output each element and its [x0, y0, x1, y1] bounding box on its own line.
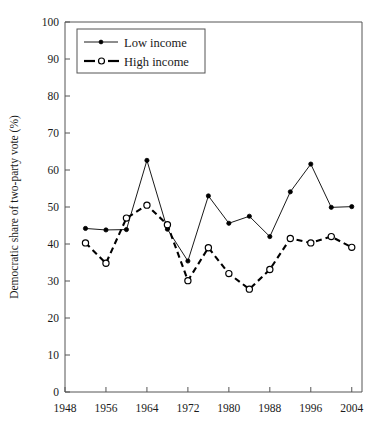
data-point-low-income-1996 — [309, 162, 313, 166]
data-point-high-income-1960 — [123, 215, 129, 221]
x-tick-label-1948: 1948 — [54, 402, 77, 414]
data-point-low-income-1964 — [145, 158, 149, 162]
data-point-low-income-1952 — [83, 226, 87, 230]
legend-label-low-income: Low income — [124, 36, 187, 50]
data-point-low-income-1984 — [247, 214, 251, 218]
x-axis-tick-marks — [65, 387, 352, 392]
data-point-high-income-1996 — [308, 240, 314, 246]
legend-swatch-marker-high-income — [99, 58, 105, 64]
chart-figure: 0102030405060708090100 19481956196419721… — [0, 0, 375, 432]
series-markers-low-income — [83, 158, 353, 263]
x-tick-label-1972: 1972 — [176, 402, 199, 414]
y-tick-label-20: 20 — [48, 312, 60, 324]
data-point-high-income-1952 — [82, 240, 88, 246]
data-point-high-income-1984 — [246, 286, 252, 292]
data-point-high-income-1968 — [164, 222, 170, 228]
data-point-low-income-1976 — [206, 194, 210, 198]
y-tick-label-70: 70 — [48, 127, 60, 139]
data-point-low-income-2000 — [329, 205, 333, 209]
data-point-high-income-1976 — [205, 245, 211, 251]
y-tick-label-80: 80 — [48, 90, 60, 102]
legend-swatch-marker-low-income — [99, 40, 103, 44]
y-tick-label-50: 50 — [48, 201, 60, 213]
data-point-low-income-1992 — [288, 190, 292, 194]
data-point-high-income-1992 — [287, 235, 293, 241]
x-tick-label-1980: 1980 — [217, 402, 240, 414]
y-axis-title: Democratic share of two-party vote (%) — [8, 115, 21, 299]
line-chart: 0102030405060708090100 19481956196419721… — [0, 0, 375, 432]
data-point-high-income-1956 — [103, 260, 109, 266]
y-axis-tick-marks — [65, 22, 70, 392]
legend-label-high-income: High income — [124, 55, 189, 69]
x-axis-tick-labels: 19481956196419721980198819962004 — [54, 402, 364, 414]
x-tick-label-1956: 1956 — [94, 402, 117, 414]
data-point-low-income-1988 — [268, 235, 272, 239]
y-tick-label-100: 100 — [42, 16, 60, 28]
series-markers-high-income — [82, 202, 354, 292]
y-tick-label-60: 60 — [48, 164, 60, 176]
y-tick-label-30: 30 — [48, 275, 60, 287]
data-point-high-income-1988 — [267, 266, 273, 272]
y-tick-label-10: 10 — [48, 349, 60, 361]
data-point-high-income-1980 — [226, 271, 232, 277]
data-point-high-income-2000 — [328, 234, 334, 240]
x-tick-label-1988: 1988 — [258, 402, 281, 414]
y-tick-label-0: 0 — [53, 386, 59, 398]
x-tick-label-1964: 1964 — [135, 402, 158, 414]
y-axis-tick-labels: 0102030405060708090100 — [42, 16, 60, 398]
data-point-low-income-1960 — [124, 227, 128, 231]
data-point-low-income-1956 — [104, 228, 108, 232]
data-point-low-income-2004 — [350, 205, 354, 209]
data-point-low-income-1972 — [186, 259, 190, 263]
data-point-high-income-2004 — [349, 244, 355, 250]
data-point-high-income-1964 — [144, 202, 150, 208]
data-point-low-income-1980 — [227, 221, 231, 225]
y-tick-label-90: 90 — [48, 53, 60, 65]
x-tick-label-1996: 1996 — [299, 402, 322, 414]
y-tick-label-40: 40 — [48, 238, 60, 250]
x-tick-label-2004: 2004 — [340, 402, 363, 414]
chart-legend: Low income High income — [77, 29, 205, 73]
data-point-high-income-1972 — [185, 278, 191, 284]
